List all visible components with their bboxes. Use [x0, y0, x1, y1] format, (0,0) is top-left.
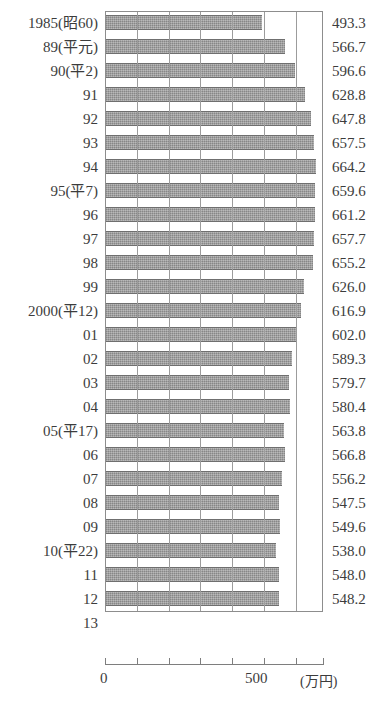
value-label: 602.0 — [332, 323, 384, 347]
value-label: 655.2 — [332, 251, 384, 275]
bar — [105, 399, 290, 414]
bar — [105, 543, 276, 558]
chart-row: 03579.7 — [0, 371, 384, 395]
gridline — [264, 11, 265, 612]
x-axis-unit-label: (万円) — [300, 670, 337, 690]
bar — [105, 471, 282, 486]
chart-row: 91628.8 — [0, 83, 384, 107]
chart-row: 09549.6 — [0, 515, 384, 539]
category-label: 09 — [0, 515, 98, 539]
chart-row: 94664.2 — [0, 155, 384, 179]
chart-row: 11548.0 — [0, 563, 384, 587]
value-label: 628.8 — [332, 83, 384, 107]
chart-row: 08547.5 — [0, 491, 384, 515]
category-label: 97 — [0, 227, 98, 251]
bar — [105, 39, 285, 54]
chart-row: 12548.2 — [0, 587, 384, 611]
chart-row: 10(平22)538.0 — [0, 539, 384, 563]
axis-tick — [232, 658, 233, 665]
bar-chart: 1985(昭60)493.389(平元)566.790(平2)596.69162… — [0, 0, 384, 701]
category-label: 10(平22) — [0, 539, 98, 563]
value-label: 548.0 — [332, 563, 384, 587]
value-label: 659.6 — [332, 179, 384, 203]
x-axis-label-500: 500 — [245, 670, 268, 687]
category-label: 94 — [0, 155, 98, 179]
axis-tick — [169, 658, 170, 665]
bar — [105, 519, 280, 534]
value-label: 579.7 — [332, 371, 384, 395]
value-label: 657.7 — [332, 227, 384, 251]
category-label: 12 — [0, 587, 98, 611]
bar — [105, 567, 279, 582]
value-label: 616.9 — [332, 299, 384, 323]
value-label: 647.8 — [332, 107, 384, 131]
axis-tick — [323, 658, 324, 665]
category-label: 98 — [0, 251, 98, 275]
category-label: 92 — [0, 107, 98, 131]
value-label: 556.2 — [332, 467, 384, 491]
value-label: 580.4 — [332, 395, 384, 419]
value-label: 596.6 — [332, 59, 384, 83]
chart-row: 13 — [0, 611, 384, 635]
x-axis-label-zero: 0 — [100, 670, 108, 687]
bar — [105, 15, 262, 30]
value-label: 493.3 — [332, 11, 384, 35]
chart-row: 2000(平12)616.9 — [0, 299, 384, 323]
value-label: 566.8 — [332, 443, 384, 467]
value-label: 664.2 — [332, 155, 384, 179]
bar — [105, 87, 305, 102]
gridline — [200, 11, 201, 612]
chart-row: 04580.4 — [0, 395, 384, 419]
axis-tick — [137, 658, 138, 665]
gridline — [169, 11, 170, 612]
gridline — [137, 11, 138, 612]
value-label: 626.0 — [332, 275, 384, 299]
bar — [105, 111, 311, 126]
category-label: 91 — [0, 83, 98, 107]
category-label: 02 — [0, 347, 98, 371]
chart-row: 95(平7)659.6 — [0, 179, 384, 203]
category-label: 89(平元) — [0, 35, 98, 59]
chart-row: 96661.2 — [0, 203, 384, 227]
value-label — [332, 611, 384, 635]
value-label: 563.8 — [332, 419, 384, 443]
category-label: 06 — [0, 443, 98, 467]
chart-row: 92647.8 — [0, 107, 384, 131]
axis-tick — [105, 658, 106, 665]
value-label: 661.2 — [332, 203, 384, 227]
category-label: 13 — [0, 611, 98, 635]
category-label: 08 — [0, 491, 98, 515]
chart-row: 99626.0 — [0, 275, 384, 299]
chart-row: 02589.3 — [0, 347, 384, 371]
bar — [105, 423, 284, 438]
axis-tick — [296, 658, 297, 665]
gridline — [232, 11, 233, 612]
category-label: 03 — [0, 371, 98, 395]
category-label: 01 — [0, 323, 98, 347]
chart-row: 98655.2 — [0, 251, 384, 275]
bar — [105, 375, 289, 390]
chart-row: 06566.8 — [0, 443, 384, 467]
category-label: 05(平17) — [0, 419, 98, 443]
value-label: 549.6 — [332, 515, 384, 539]
bar — [105, 495, 279, 510]
bar — [105, 447, 285, 462]
category-label: 95(平7) — [0, 179, 98, 203]
value-label: 547.5 — [332, 491, 384, 515]
category-label: 07 — [0, 467, 98, 491]
category-label: 11 — [0, 563, 98, 587]
bar — [105, 303, 301, 318]
bar — [105, 591, 279, 606]
chart-row: 05(平17)563.8 — [0, 419, 384, 443]
gridline — [296, 11, 297, 612]
category-label: 93 — [0, 131, 98, 155]
chart-row: 07556.2 — [0, 467, 384, 491]
axis-tick — [200, 658, 201, 665]
value-label: 657.5 — [332, 131, 384, 155]
chart-row: 89(平元)566.7 — [0, 35, 384, 59]
value-label: 538.0 — [332, 539, 384, 563]
chart-row: 1985(昭60)493.3 — [0, 11, 384, 35]
chart-row: 01602.0 — [0, 323, 384, 347]
value-label: 589.3 — [332, 347, 384, 371]
category-label: 90(平2) — [0, 59, 98, 83]
